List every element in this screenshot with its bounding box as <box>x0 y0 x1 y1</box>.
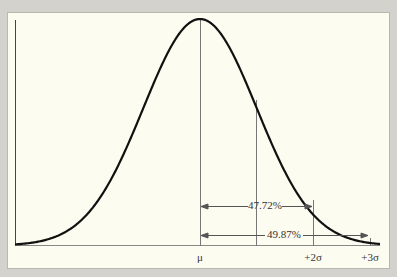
area-label-2sigma: 47.72% <box>248 199 282 211</box>
area-label-3sigma: 49.87% <box>267 228 301 240</box>
normal-curve-diagram <box>0 0 397 277</box>
normal-curve <box>15 19 380 244</box>
tick-label-plus2sigma: +2σ <box>304 251 322 263</box>
tick-label-mu: μ <box>197 251 203 263</box>
tick-label-plus3sigma: +3σ <box>361 251 379 263</box>
